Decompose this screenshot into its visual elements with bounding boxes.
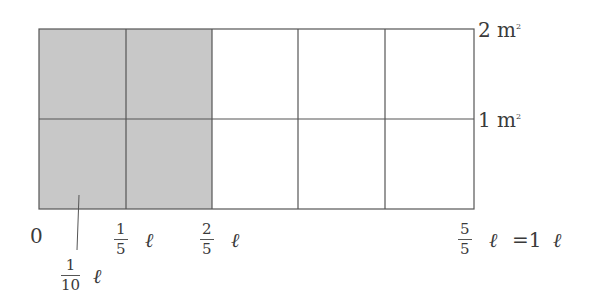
fraction-two-fifths: 25 [200,222,214,257]
label-2m2: 2 m2 [478,20,521,40]
fraction-one-fifth: 15 [114,222,128,257]
fraction-five-fifths: 55 [458,222,472,257]
area-grid-diagram [0,0,595,307]
unit-liter: ℓ [553,230,561,250]
equals-one: =1 [512,230,541,250]
unit-liter: ℓ [145,230,153,250]
unit-liter: ℓ [231,230,239,250]
label-1m2: 1 m2 [478,110,521,130]
label-zero: 0 [30,226,43,246]
fraction-one-tenth: 110 [61,258,80,293]
unit-liter: ℓ [489,230,497,250]
unit-liter: ℓ [93,266,101,286]
